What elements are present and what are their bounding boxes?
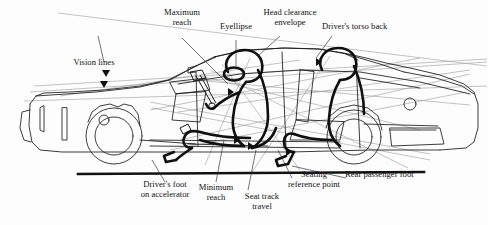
label-drivers-torso-back: Driver's torso back xyxy=(322,22,432,32)
driver-foot-on-pedal xyxy=(164,152,176,162)
front-grille-slot xyxy=(62,108,67,140)
rear-package-shelf xyxy=(360,78,420,88)
beltline xyxy=(178,70,470,94)
vision-line-sightline-k xyxy=(252,56,330,172)
door-line-b-pillar xyxy=(282,52,286,146)
leader-seat-track xyxy=(248,150,256,190)
front-wheel-outer xyxy=(86,108,142,164)
steering-assembly xyxy=(180,70,216,134)
a-pillar xyxy=(196,57,216,66)
front-wheel-inner xyxy=(95,117,133,155)
driver-thigh-upper xyxy=(200,132,250,138)
trunk-floor xyxy=(364,124,438,126)
rear-wheel-outer xyxy=(327,110,381,164)
vehicle-packaging-figure: Vision lines Maximum reach Eyellipse Hea… xyxy=(0,0,488,225)
label-rear-passenger-foot: Rear passenger foot xyxy=(345,170,475,180)
vision-line-horizon-c xyxy=(24,86,487,101)
vision-line-sightline-d xyxy=(150,58,420,110)
driver-forearm-to-wheel xyxy=(206,104,214,109)
label-seat-track-travel: Seat track travel xyxy=(228,192,296,211)
headlight xyxy=(40,106,44,132)
rear-passenger-manikin xyxy=(276,48,364,166)
rear-bumper xyxy=(390,128,444,146)
arrow-vision-line-1 xyxy=(102,70,110,77)
label-vision-lines: Vision lines xyxy=(56,58,132,68)
driver-shin xyxy=(176,148,192,160)
vision-line-sightline-h xyxy=(210,70,408,168)
